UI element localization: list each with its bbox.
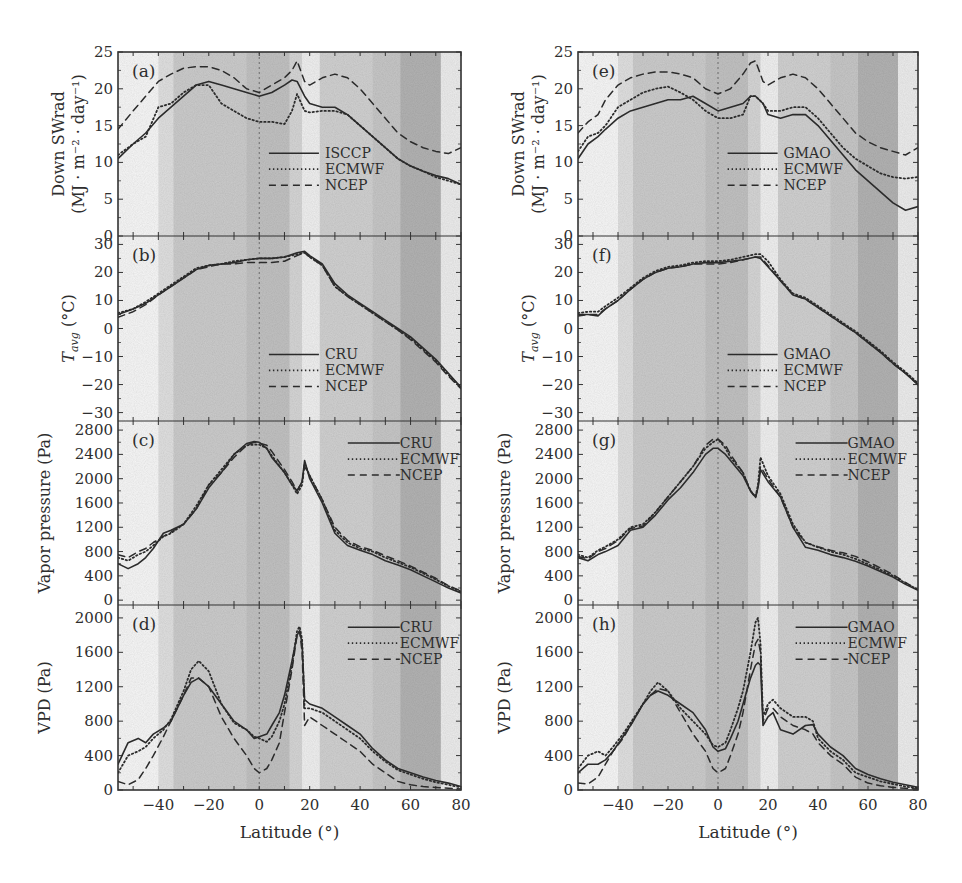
y-axis-label: Tavg (°C) [519,294,541,362]
y-tick-label: 2800 [75,421,113,439]
legend-label-ecmwf: ECMWF [848,451,908,467]
multi-panel-chart: 0510152025Down SWrad(MJ · m⁻² · day⁻¹)(a… [0,0,962,883]
y-tick-label: 20 [554,80,573,98]
legend-label-gmao: GMAO [784,346,831,362]
y-tick-label: 0 [563,781,573,799]
y-tick-label: 1200 [75,518,113,536]
y-axis-label: (MJ · m⁻² · day⁻¹) [69,74,88,214]
y-tick-label: 400 [544,567,573,585]
y-tick-label: 0 [563,591,573,609]
y-tick-label: 10 [554,291,573,309]
panel-tag-f: (f) [592,245,612,265]
y-tick-label: −10 [541,348,573,366]
x-tick-label: −20 [652,796,684,814]
legend-label-gmao: GMAO [784,145,831,161]
y-tick-label: 10 [94,291,113,309]
x-tick-label: 80 [451,796,470,814]
y-axis-label: VPD (Pa) [35,661,54,734]
x-tick-label: −40 [143,796,175,814]
legend-label-ncep: NCEP [325,177,368,193]
y-tick-label: 20 [94,80,113,98]
legend-label-ecmwf: ECMWF [325,161,385,177]
y-tick-label: 0 [103,781,113,799]
legend-label-ecmwf: ECMWF [400,635,460,651]
column-right: 0510152025Down SWrad(MJ · m⁻² · day⁻¹)(e… [495,43,928,842]
y-tick-label: 15 [554,117,573,135]
x-tick-label: 60 [401,796,420,814]
legend-label-cru: CRU [325,346,358,362]
y-tick-label: 1600 [75,643,113,661]
panel-tag-c: (c) [132,430,155,450]
y-tick-label: 800 [544,543,573,561]
y-tick-label: 25 [554,43,573,61]
x-tick-label: 80 [908,796,927,814]
y-tick-label: 10 [554,153,573,171]
legend-label-ncep: NCEP [400,651,443,667]
legend-label-ncep: NCEP [848,467,891,483]
y-axis-label: Tavg (°C) [59,294,81,362]
y-tick-label: 15 [94,117,113,135]
legend-label-ncep: NCEP [784,177,827,193]
legend-label-ncep: NCEP [325,378,368,394]
x-tick-label: 0 [713,796,723,814]
legend-label-ecmwf: ECMWF [784,161,844,177]
y-tick-label: 800 [84,543,113,561]
x-tick-label: 40 [808,796,827,814]
y-tick-label: 2400 [75,445,113,463]
y-tick-label: 800 [544,712,573,730]
legend-label-ncep: NCEP [400,467,443,483]
legend-label-isccp: ISCCP [325,145,371,161]
legend-label-ecmwf: ECMWF [784,362,844,378]
y-tick-label: 0 [103,320,113,338]
y-tick-label: 25 [94,43,113,61]
legend-label-ecmwf: ECMWF [848,635,908,651]
figure-container: 0510152025Down SWrad(MJ · m⁻² · day⁻¹)(a… [0,0,962,883]
y-tick-label: 400 [84,747,113,765]
legend-label-ecmwf: ECMWF [400,451,460,467]
legend-label-ncep: NCEP [784,378,827,394]
x-tick-label: 0 [254,796,264,814]
y-tick-label: 0 [563,320,573,338]
y-tick-label: 1200 [535,678,573,696]
y-axis-label: VPD (Pa) [495,661,514,734]
y-tick-label: 1200 [535,518,573,536]
y-tick-label: 10 [94,153,113,171]
y-tick-label: 2800 [535,421,573,439]
y-axis-label: (MJ · m⁻² · day⁻¹) [529,74,548,214]
columns-layer: 0510152025Down SWrad(MJ · m⁻² · day⁻¹)(a… [35,43,928,842]
y-tick-label: 2000 [75,609,113,627]
y-tick-label: −10 [81,348,113,366]
y-tick-label: −30 [81,404,113,422]
legend-label-gmao: GMAO [848,435,895,451]
y-tick-label: 1200 [75,678,113,696]
y-axis-label: Down SWrad [509,91,528,197]
legend-label-gmao: GMAO [848,619,895,635]
panel-tag-b: (b) [132,245,156,265]
y-axis-label: Down SWrad [49,91,68,197]
y-tick-label: 2000 [535,609,573,627]
x-axis-label: Latitude (°) [698,822,798,842]
x-tick-label: 20 [300,796,319,814]
legend-label-cru: CRU [400,435,433,451]
y-tick-label: 400 [84,567,113,585]
y-tick-label: 1600 [535,643,573,661]
y-tick-label: 800 [84,712,113,730]
y-tick-label: −20 [81,376,113,394]
y-tick-label: −20 [541,376,573,394]
x-tick-label: −40 [602,796,634,814]
panel-tag-g: (g) [592,430,616,450]
y-tick-label: −30 [541,404,573,422]
y-tick-label: 2400 [535,445,573,463]
legend-label-ecmwf: ECMWF [325,362,385,378]
y-tick-label: 30 [94,235,113,253]
panel-tag-d: (d) [132,614,156,634]
y-tick-label: 20 [94,263,113,281]
y-tick-label: 1600 [75,494,113,512]
panel-tag-a: (a) [132,61,155,81]
x-tick-label: 40 [351,796,370,814]
y-tick-label: 2000 [535,470,573,488]
x-tick-label: −20 [193,796,225,814]
column-left: 0510152025Down SWrad(MJ · m⁻² · day⁻¹)(a… [35,43,471,842]
panel-tag-h: (h) [592,614,616,634]
panel-tag-e: (e) [592,61,615,81]
